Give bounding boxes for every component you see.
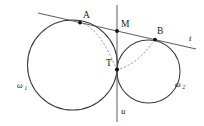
circle-label-omega1-subscript: 1 — [25, 85, 28, 91]
circle-omega1 — [28, 20, 118, 110]
point-label-a: A — [83, 10, 90, 20]
point-t-dot — [115, 67, 119, 71]
line-label-u: u — [121, 106, 126, 116]
point-b-dot — [153, 38, 157, 42]
point-label-t: T — [106, 58, 112, 68]
geometry-figure: A M B T t u ω 1 ω 2 — [0, 0, 204, 126]
geometry-canvas: A M B T t u ω 1 ω 2 — [0, 0, 204, 126]
point-a-dot — [78, 21, 82, 25]
point-m-dot — [115, 29, 119, 33]
circle-label-omega1: ω — [17, 81, 23, 90]
line-label-t: t — [189, 33, 192, 43]
dashed-arc-b-t — [117, 40, 155, 70]
circle-omega2 — [117, 40, 180, 103]
circle-label-omega2: ω — [175, 80, 181, 89]
circle-label-omega2-subscript: 2 — [183, 84, 186, 90]
point-label-b: B — [157, 26, 163, 36]
point-label-m: M — [121, 19, 130, 29]
